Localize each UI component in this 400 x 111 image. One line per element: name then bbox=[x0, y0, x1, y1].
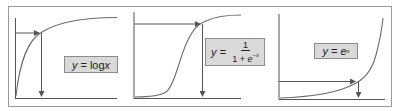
label-sigmoid: y = 1 1 + e−x bbox=[205, 38, 265, 66]
label-exp: y = ex bbox=[314, 43, 358, 59]
label-exponent: x bbox=[347, 48, 350, 54]
denominator: 1 + e−x bbox=[232, 51, 259, 64]
label-eq: = bbox=[217, 46, 230, 58]
label-log: y = log x bbox=[64, 56, 118, 73]
label-var: x bbox=[105, 59, 111, 71]
fraction: 1 1 + e−x bbox=[232, 41, 259, 64]
label-eq: = bbox=[77, 59, 90, 71]
label-eq: = bbox=[328, 45, 341, 57]
label-func: log bbox=[90, 59, 105, 71]
numerator: 1 bbox=[241, 41, 250, 51]
